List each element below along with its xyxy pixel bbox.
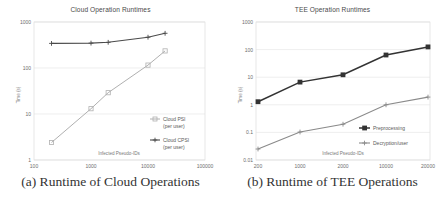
- y-axis-tick-labels: 1000 100 10 1 0.1 0.01: [242, 19, 253, 163]
- svg-text:100000: 100000: [197, 163, 214, 169]
- svg-text:20000: 20000: [421, 163, 435, 169]
- legend-label-decryption-user: Decryption/user: [373, 140, 408, 146]
- panel-cloud-operations: Cloud Operation Runtimes 1000 100 10 1 T…: [0, 0, 221, 200]
- y-axis-title: Time (s): [238, 86, 243, 103]
- legend-label-cloud-cpsi: Cloud CPSI: [163, 137, 189, 143]
- y-axis-tick-labels: 1000 100 10 1: [20, 19, 31, 163]
- figure-container: Cloud Operation Runtimes 1000 100 10 1 T…: [0, 0, 443, 200]
- caption-panel-a: (a) Runtime of Cloud Operations: [0, 174, 221, 190]
- x-axis-tick-labels: 200 1000 2000 10000 20000: [254, 163, 435, 169]
- svg-text:10000: 10000: [379, 163, 393, 169]
- svg-text:0.01: 0.01: [243, 157, 253, 163]
- svg-text:200: 200: [254, 163, 263, 169]
- legend-item-preprocessing: Preprocessing: [359, 125, 405, 131]
- svg-text:1: 1: [250, 102, 253, 108]
- svg-text:10: 10: [25, 111, 31, 117]
- legend-sublabel-cloud-psi: (per user): [163, 123, 185, 129]
- legend-sublabel-cloud-cpsi: (per user): [163, 144, 185, 150]
- svg-text:1000: 1000: [20, 19, 31, 25]
- x-axis-title: Infected Pseudo-IDs: [98, 151, 140, 156]
- chart-tee-operations: 1000 100 10 1 0.1 0.01 Time (s) 200 1000…: [222, 0, 443, 172]
- svg-text:1000: 1000: [294, 163, 305, 169]
- svg-text:2000: 2000: [337, 163, 348, 169]
- caption-panel-b: (b) Runtime of TEE Operations: [222, 174, 443, 190]
- x-axis-tick-labels: 100 1000 10000 100000: [30, 163, 214, 169]
- legend-label-cloud-psi: Cloud PSI: [163, 116, 186, 122]
- panel-tee-operations: TEE Operation Runtimes 1000 100 10 1 0.1…: [222, 0, 443, 200]
- svg-text:1000: 1000: [85, 163, 96, 169]
- svg-text:100: 100: [23, 65, 32, 71]
- svg-text:0.1: 0.1: [246, 129, 253, 135]
- chart-cloud-operations: 1000 100 10 1 Time (s) 100 1000 10000 10…: [0, 0, 221, 172]
- legend-label-preprocessing: Preprocessing: [373, 125, 405, 131]
- svg-text:100: 100: [30, 163, 39, 169]
- x-axis-title: Infected Pseudo-IDs: [322, 151, 364, 156]
- svg-text:10: 10: [247, 74, 253, 80]
- svg-text:100: 100: [245, 47, 254, 53]
- svg-text:10000: 10000: [141, 163, 155, 169]
- svg-text:1000: 1000: [242, 19, 253, 25]
- y-axis-title: Time (s): [16, 86, 21, 103]
